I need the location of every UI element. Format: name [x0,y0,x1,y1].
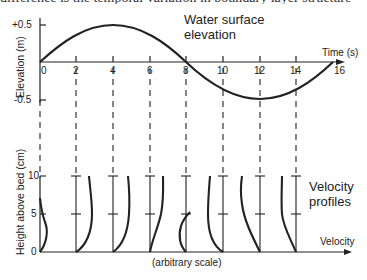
x-tick-12: 12 [254,66,265,76]
height-axis-label: Height above bed (cm) [14,149,26,255]
x-tick-2: 2 [73,66,79,76]
x-tick-8: 8 [183,66,189,76]
arbitrary-scale-note: (arbitrary scale) [152,258,221,268]
x-tick-0: 0 [41,66,47,76]
x-tick-4: 4 [110,66,116,76]
time-axis-label: Time (s) [322,48,358,58]
h-tick-5: 5 [31,209,37,219]
h-tick-0: 0 [31,247,37,257]
x-tick-6: 6 [147,66,153,76]
y-tick-plus-0-5: +0.5 [12,20,32,30]
velocity-profiles-title-line1: Velocity [309,180,354,194]
elevation-axis-label: Elevation (m) [14,36,26,98]
x-tick-16: 16 [334,66,345,76]
velocity-profiles-title-line2: profiles [309,195,351,209]
velocity-axis-arrow-icon [344,249,352,255]
water-surface-title-line2: elevation [184,28,236,42]
x-tick-14: 14 [290,66,301,76]
h-tick-10: 10 [28,171,39,181]
x-tick-10: 10 [217,66,228,76]
velocity-axis-label: Velocity [320,237,354,247]
water-surface-title-line1: Water surface [184,13,264,27]
